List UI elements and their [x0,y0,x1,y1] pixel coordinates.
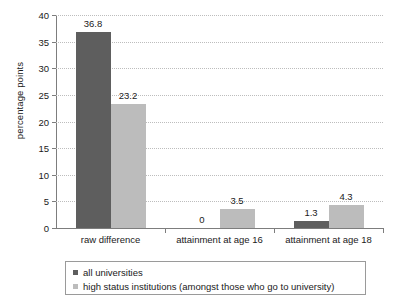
bar [329,205,364,228]
legend-label: all universities [83,267,143,278]
y-axis-tick-label: 10 [9,169,49,180]
y-axis-tick-label: 20 [9,116,49,127]
legend-label: high status institutions (amongst those … [83,281,334,292]
bar-value-label: 3.5 [230,195,243,206]
y-axis-tick-mark [52,201,56,202]
y-axis-tick-mark [52,42,56,43]
x-axis-group-separator [165,229,166,233]
legend-swatch-icon [73,270,78,275]
bar-value-label: 23.2 [119,90,138,101]
bar [294,221,329,228]
x-axis-category-label: attainment at age 18 [285,234,372,245]
plot-area: 36.823.203.51.34.3 [56,15,383,228]
legend-item: all universities [73,265,365,279]
y-axis-tick-mark [52,68,56,69]
bar [220,209,255,228]
y-axis-tick-label: 35 [9,36,49,47]
y-axis-tick-mark [52,228,56,229]
x-axis-category-label: raw difference [81,234,141,245]
y-axis-tick-label: 30 [9,63,49,74]
y-axis-tick-label: 0 [9,223,49,234]
y-axis-tick-mark [52,122,56,123]
bar-value-label: 0 [199,214,204,225]
y-axis-tick-mark [52,148,56,149]
bar-value-label: 1.3 [304,207,317,218]
legend-swatch-icon [73,284,78,289]
y-axis-tick-mark [52,175,56,176]
y-axis-tick-labels: 0510152025303540 [0,0,49,307]
x-axis-end-tick [383,229,384,233]
x-axis-line [56,228,384,229]
y-axis-tick-label: 5 [9,196,49,207]
bar-group: 1.34.3 [274,15,383,228]
y-axis-tick-label: 40 [9,10,49,21]
y-axis-tick-mark [52,15,56,16]
legend-item: high status institutions (amongst those … [73,279,365,293]
bar-group: 03.5 [165,15,274,228]
x-axis-category-label: attainment at age 16 [176,234,263,245]
bar [111,104,146,228]
bar [76,32,111,228]
x-axis-group-separator [274,229,275,233]
bar-chart: percentage points 0510152025303540 36.82… [0,0,398,307]
bar-value-label: 4.3 [339,191,352,202]
y-axis-tick-label: 25 [9,89,49,100]
y-axis-tick-label: 15 [9,143,49,154]
chart-legend: all universitieshigh status institutions… [65,261,366,295]
bar-group: 36.823.2 [56,15,165,228]
bar-value-label: 36.8 [84,18,103,29]
y-axis-tick-mark [52,95,56,96]
